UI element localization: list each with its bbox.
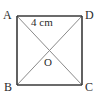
geometry-figure: A D B C O 4 cm [0,0,103,103]
vertex-label-d: D [85,9,94,21]
vertex-label-c: C [85,81,93,93]
vertex-label-b: B [4,81,12,93]
vertex-label-a: A [3,9,12,21]
measurement-label: 4 cm [31,17,53,28]
center-point-label-o: O [44,57,52,68]
